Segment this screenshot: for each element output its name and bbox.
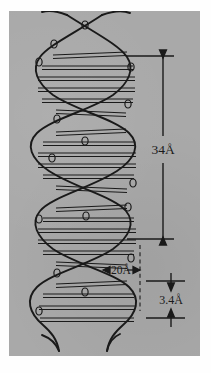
rise-label: 3.4Å <box>159 293 183 307</box>
phosphate-marker <box>83 212 89 220</box>
rise-arrow-bottom <box>168 309 175 317</box>
figure-sheet: 34Å 20Å 3.4Å <box>0 0 211 373</box>
halftone-plate: 34Å 20Å 3.4Å <box>9 11 200 356</box>
phosphate-marker <box>130 179 136 187</box>
phosphate-marker <box>36 307 42 315</box>
phosphate-marker <box>36 215 42 223</box>
base-pair-rung <box>38 205 136 268</box>
phosphate-marker <box>125 203 131 211</box>
pitch-arrow-bottom <box>160 237 167 245</box>
phosphate-marker <box>125 100 131 108</box>
strand-tail-top-right <box>102 11 130 15</box>
pitch-arrow-top <box>160 50 167 58</box>
backbone-strand-front <box>30 15 131 351</box>
base-pair-rung <box>38 52 135 116</box>
backbone-strands <box>30 11 136 351</box>
phosphate-marker <box>49 154 55 162</box>
pitch-label: 34Å <box>151 142 175 157</box>
dna-helix-illustration: 34Å 20Å 3.4Å <box>9 11 200 356</box>
strand-tail-top-left <box>42 11 67 15</box>
rise-arrow-top <box>168 283 175 291</box>
diameter-arrow-right <box>133 267 140 274</box>
phosphate-marker <box>82 288 88 296</box>
base-pair-rung <box>39 281 135 321</box>
phosphate-marker <box>82 137 88 145</box>
backbone-strand-back <box>35 15 136 351</box>
diameter-label: 20Å <box>111 263 132 276</box>
phosphate-marker <box>128 254 134 262</box>
